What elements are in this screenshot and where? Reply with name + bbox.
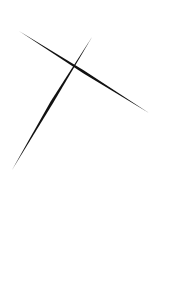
drawing-canvas (0, 0, 185, 287)
cross-sketch-icon (0, 0, 185, 287)
stroke-ascending (12, 37, 92, 170)
stroke-descending (19, 31, 149, 113)
